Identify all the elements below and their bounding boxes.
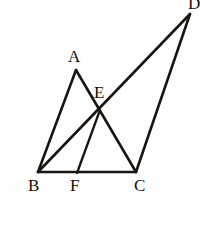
vertex-label-D: D [188, 0, 200, 12]
vertex-label-F: F [70, 177, 79, 194]
vertex-label-A: A [68, 48, 80, 65]
segment-CD [136, 14, 190, 172]
segment-AC [76, 70, 136, 172]
segment-BD [38, 14, 190, 172]
geometry-figure: A B C D E F [0, 0, 216, 225]
vertex-label-E: E [94, 84, 104, 101]
segment-BA [38, 70, 76, 172]
vertex-label-C: C [134, 177, 145, 194]
vertex-label-B: B [28, 177, 39, 194]
